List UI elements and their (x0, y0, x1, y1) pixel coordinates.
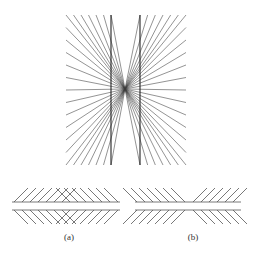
radial-line (125, 89, 186, 128)
radial-line (74, 15, 126, 89)
radial-line (125, 40, 186, 89)
diagonal-lower (96, 210, 110, 224)
diagonal-lower (104, 210, 118, 224)
diagonal-upper (171, 188, 185, 202)
diagonal-lower (163, 210, 177, 224)
diagonal-upper (163, 188, 177, 202)
diagonal-upper (123, 188, 137, 202)
diagonal-upper (22, 188, 36, 202)
diagonal-upper (193, 188, 207, 202)
radial-line (81, 15, 125, 89)
diagonal-upper (64, 188, 78, 202)
diagonal-lower (171, 210, 185, 224)
panel-label-b: (b) (188, 232, 199, 242)
diagonal-upper (147, 188, 161, 202)
diagonal-upper (80, 188, 94, 202)
radial-line (111, 15, 125, 89)
radial-line (81, 89, 125, 165)
diagonal-lower (64, 210, 78, 224)
radial-line (125, 89, 186, 90)
radial-line (66, 65, 125, 89)
diagonal-upper (72, 188, 86, 202)
diagonal-lower (155, 210, 169, 224)
diagonal-lower (123, 210, 137, 224)
radial-line (125, 89, 171, 165)
radial-line (125, 89, 140, 165)
diagonal-upper (56, 188, 70, 202)
radial-line (66, 40, 125, 89)
diagonal-lower (193, 210, 207, 224)
diagonal-upper (233, 188, 247, 202)
radial-line (125, 15, 171, 89)
diagonal-upper (104, 188, 118, 202)
diagonal-lower (131, 210, 145, 224)
radial-line (111, 89, 125, 165)
diagonal-upper (225, 188, 239, 202)
diagonal-upper (209, 188, 223, 202)
radial-line (125, 65, 186, 89)
diagonal-upper (131, 188, 145, 202)
radial-line (125, 89, 186, 153)
panel-label-a: (a) (64, 232, 74, 242)
diagonal-upper (217, 188, 231, 202)
hering-illusion-figure (0, 0, 253, 255)
radial-line (66, 89, 125, 90)
diagonal-lower (139, 210, 153, 224)
radial-line (66, 15, 125, 89)
diagonal-lower (80, 210, 94, 224)
radial-line (66, 89, 125, 128)
diagonal-lower (233, 210, 247, 224)
diagonal-lower (88, 210, 102, 224)
diagonal-lower (72, 210, 86, 224)
diagonal-lower (22, 210, 36, 224)
diagonal-upper (155, 188, 169, 202)
diagonal-upper (30, 188, 44, 202)
diagonal-upper (88, 188, 102, 202)
diagonal-lower (38, 210, 52, 224)
diagonal-upper (139, 188, 153, 202)
diagonal-lower (56, 210, 70, 224)
diagonal-lower (209, 210, 223, 224)
diagonal-lower (217, 210, 231, 224)
diagonal-lower (225, 210, 239, 224)
diagonal-upper (201, 188, 215, 202)
diagonal-upper (14, 188, 28, 202)
radial-line (125, 15, 140, 89)
diagonal-upper (38, 188, 52, 202)
radial-line (125, 15, 186, 89)
diagonal-lower (147, 210, 161, 224)
diagonal-lower (14, 210, 28, 224)
diagonal-upper (96, 188, 110, 202)
diagonal-lower (201, 210, 215, 224)
diagonal-lower (30, 210, 44, 224)
radial-line (125, 15, 178, 89)
